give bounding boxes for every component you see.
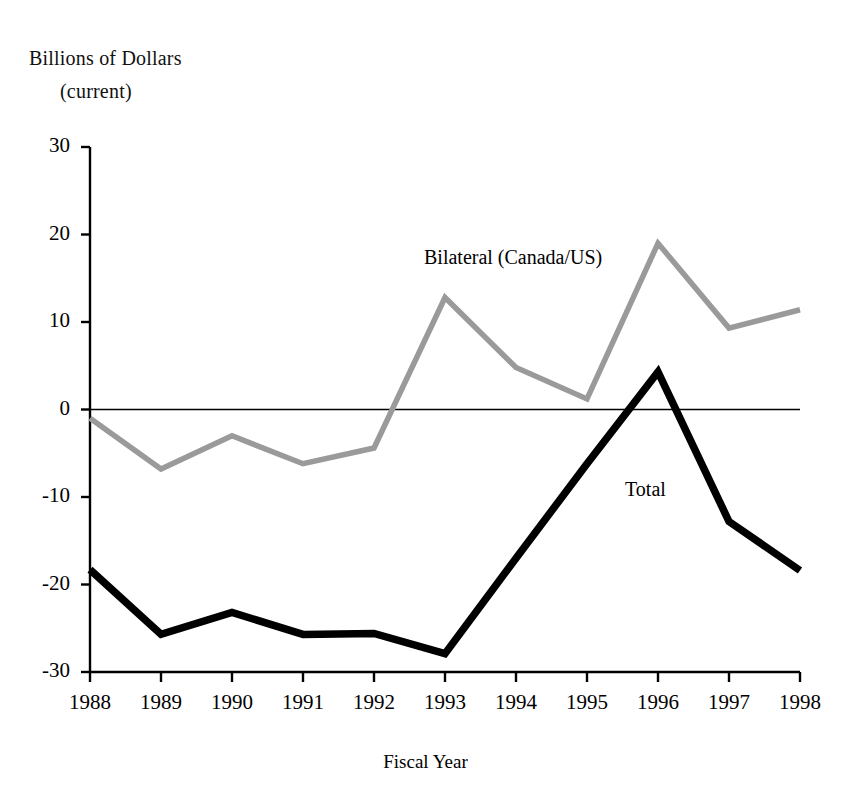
- axes-group: [81, 147, 800, 682]
- series-line-bilateral: [90, 243, 800, 469]
- line-chart-figure: Billions of Dollars (current) 3020100-10…: [0, 0, 851, 802]
- data-series-group: [90, 243, 800, 653]
- plot-area: [0, 0, 851, 802]
- series-label-bilateral: Bilateral (Canada/US): [424, 246, 602, 269]
- x-axis-title: Fiscal Year: [0, 751, 851, 773]
- series-label-total: Total: [625, 478, 666, 501]
- series-line-total: [90, 372, 800, 654]
